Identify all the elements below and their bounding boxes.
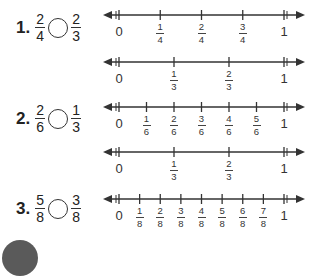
tick-label: 18	[136, 206, 144, 229]
label-one: 1	[280, 71, 287, 86]
numerator: 1	[171, 159, 176, 169]
number-line-axis	[100, 144, 310, 160]
denominator: 8	[158, 219, 163, 229]
label-one: 1	[280, 24, 287, 39]
denominator: 6	[254, 127, 259, 137]
arrow-left-icon	[103, 11, 112, 19]
denominator: 8	[261, 219, 266, 229]
numerator: 1	[171, 69, 176, 79]
denominator: 8	[72, 210, 80, 224]
denominator: 6	[199, 127, 204, 137]
numerator: 1	[158, 22, 163, 32]
denominator: 3	[226, 172, 231, 182]
numerator: 3	[240, 22, 245, 32]
tick-label: 56	[253, 114, 261, 137]
denominator: 4	[158, 35, 163, 45]
numerator: 2	[72, 12, 80, 26]
answer-circle[interactable]	[48, 199, 68, 219]
numerator: 5	[36, 193, 44, 207]
number-line-fourths: 01142434	[100, 7, 310, 47]
tick-label: 26	[170, 114, 178, 137]
denominator: 4	[36, 29, 44, 43]
arrow-right-icon	[296, 195, 305, 203]
numerator: 2	[36, 12, 44, 26]
tick-label: 48	[198, 206, 206, 229]
arrow-left-icon	[103, 148, 112, 156]
answer-circle[interactable]	[48, 18, 68, 38]
left-fraction: 58	[35, 193, 45, 224]
arrow-right-icon	[296, 103, 305, 111]
answer-circle[interactable]	[48, 109, 68, 129]
comparison-problem: 2.2613	[16, 103, 81, 134]
tick-label: 38	[177, 206, 185, 229]
number-line-sixths: 011626364656	[100, 99, 310, 139]
numerator: 2	[36, 103, 44, 117]
number-line-thirds-a: 011323	[100, 54, 310, 94]
numerator: 2	[158, 206, 163, 216]
right-fraction: 38	[71, 193, 81, 224]
denominator: 3	[171, 172, 176, 182]
section-badge	[2, 240, 38, 276]
numerator: 1	[72, 103, 80, 117]
tick-label: 14	[156, 22, 164, 45]
numerator: 3	[72, 193, 80, 207]
tick-label: 23	[225, 159, 233, 182]
label-zero: 0	[115, 208, 122, 223]
numerator: 2	[171, 114, 176, 124]
denominator: 8	[219, 219, 224, 229]
number-line-thirds-b: 011323	[100, 144, 310, 184]
denominator: 3	[72, 120, 80, 134]
tick-label: 13	[170, 159, 178, 182]
denominator: 6	[36, 120, 44, 134]
denominator: 4	[240, 35, 245, 45]
denominator: 3	[171, 82, 176, 92]
right-fraction: 23	[71, 12, 81, 43]
arrow-left-icon	[103, 195, 112, 203]
numerator: 4	[226, 114, 231, 124]
comparison-problem: 1.2423	[16, 12, 81, 43]
tick-label: 24	[198, 22, 206, 45]
tick-label: 13	[170, 69, 178, 92]
problem-number: 3.	[16, 199, 30, 219]
arrow-left-icon	[103, 103, 112, 111]
tick-label: 68	[239, 206, 247, 229]
numerator: 1	[144, 114, 149, 124]
number-line-axis	[100, 7, 310, 23]
tick-label: 28	[156, 206, 164, 229]
left-fraction: 26	[35, 103, 45, 134]
label-zero: 0	[115, 116, 122, 131]
tick-label: 23	[225, 69, 233, 92]
denominator: 3	[72, 29, 80, 43]
denominator: 8	[240, 219, 245, 229]
numerator: 2	[226, 69, 231, 79]
tick-label: 78	[259, 206, 267, 229]
numerator: 5	[219, 206, 224, 216]
denominator: 6	[144, 127, 149, 137]
denominator: 4	[199, 35, 204, 45]
numerator: 5	[254, 114, 259, 124]
numerator: 3	[178, 206, 183, 216]
tick-label: 46	[225, 114, 233, 137]
left-fraction: 24	[35, 12, 45, 43]
tick-label: 36	[198, 114, 206, 137]
numerator: 2	[226, 159, 231, 169]
denominator: 6	[226, 127, 231, 137]
arrow-right-icon	[296, 148, 305, 156]
tick-label: 16	[143, 114, 151, 137]
label-one: 1	[280, 116, 287, 131]
label-one: 1	[280, 161, 287, 176]
label-one: 1	[280, 208, 287, 223]
numerator: 7	[261, 206, 266, 216]
label-zero: 0	[115, 24, 122, 39]
number-line-eighths: 0118283848586878	[100, 191, 310, 231]
right-fraction: 13	[71, 103, 81, 134]
numerator: 1	[137, 206, 142, 216]
denominator: 8	[199, 219, 204, 229]
arrow-left-icon	[103, 58, 112, 66]
denominator: 3	[226, 82, 231, 92]
denominator: 8	[178, 219, 183, 229]
tick-label: 58	[218, 206, 226, 229]
label-zero: 0	[115, 161, 122, 176]
denominator: 8	[137, 219, 142, 229]
label-zero: 0	[115, 71, 122, 86]
